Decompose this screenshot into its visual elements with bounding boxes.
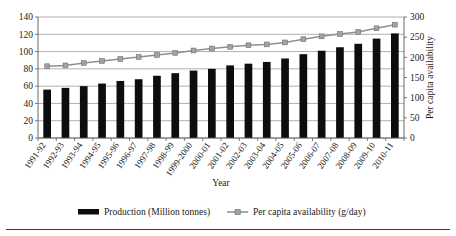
bar (300, 54, 308, 138)
bar (226, 65, 234, 138)
y-axis-right-tick-label: 150 (410, 73, 425, 83)
chart-figure: 020406080100120140 050100150200250300 19… (0, 0, 456, 236)
bar (80, 86, 88, 138)
y-axis-left-tick-label: 80 (24, 64, 34, 74)
line-marker (374, 26, 379, 31)
line-marker (356, 30, 361, 35)
y-axis-right-tick-label: 250 (410, 32, 425, 42)
y-axis-left-labels: 020406080100120140 (19, 12, 34, 143)
bar (318, 51, 326, 138)
bar (117, 81, 125, 138)
line-marker (264, 42, 269, 47)
bar (263, 62, 271, 138)
legend-label-production: Production (Million tonnes) (104, 207, 210, 218)
line-marker (301, 37, 306, 42)
gridlines-group (38, 17, 404, 138)
line-marker (155, 53, 160, 58)
axes-group (35, 17, 407, 141)
bar (336, 47, 344, 138)
line-marker (81, 61, 86, 66)
dual-axis-combo-chart: 020406080100120140 050100150200250300 19… (0, 0, 456, 236)
y-axis-right-tick-label: 50 (410, 113, 420, 123)
bar-series-group (43, 33, 398, 138)
y-axis-left-tick-label: 140 (19, 12, 34, 22)
bottom-divider-rule (6, 229, 450, 230)
y-axis-right-title: Per capita availability (425, 36, 435, 119)
bar (153, 76, 161, 138)
line-series-group (45, 22, 398, 68)
y-axis-left-tick-label: 40 (24, 99, 34, 109)
legend-swatch-production (78, 209, 99, 215)
y-axis-left-tick-label: 20 (24, 116, 34, 126)
x-axis-title: Year (212, 178, 230, 188)
bar (354, 44, 362, 138)
line-marker (209, 46, 214, 51)
line-marker (392, 22, 397, 27)
bar (171, 73, 179, 138)
line-marker (283, 40, 288, 45)
y-axis-left-tick-label: 100 (19, 47, 34, 57)
line-marker (191, 48, 196, 53)
bar (43, 90, 51, 138)
y-axis-right-tick-label: 200 (410, 53, 425, 63)
line-marker (338, 32, 343, 37)
line-marker (173, 50, 178, 55)
bar (373, 39, 381, 138)
bar (98, 84, 106, 138)
line-marker (100, 59, 105, 64)
bar (245, 64, 253, 138)
bar (190, 71, 198, 138)
bar (281, 58, 289, 138)
line-marker (118, 57, 123, 62)
y-axis-left-tick-label: 60 (24, 81, 34, 91)
bar (135, 79, 143, 138)
y-axis-right-tick-label: 0 (410, 133, 415, 143)
line-marker (228, 44, 233, 49)
y-axis-right-tick-label: 300 (410, 12, 425, 22)
y-axis-left-tick-label: 120 (19, 30, 34, 40)
y-axis-right-tick-label: 100 (410, 93, 425, 103)
bar (391, 33, 399, 138)
legend-swatch-marker-availability (235, 209, 240, 214)
line-marker (45, 64, 50, 69)
line-marker (136, 55, 141, 60)
y-axis-left-tick-label: 0 (28, 133, 33, 143)
bar (208, 69, 216, 138)
x-axis-category-labels: 1991-921992-931993-941994-951995-961996-… (22, 140, 395, 178)
line-marker (246, 43, 251, 48)
legend-label-availability: Per capita availability (g/day) (253, 207, 366, 218)
line-marker (319, 34, 324, 39)
bar (62, 88, 70, 138)
line-marker (63, 63, 68, 68)
chart-legend: Production (Million tonnes)Per capita av… (78, 207, 366, 218)
y-axis-right-labels: 050100150200250300 (410, 12, 425, 143)
